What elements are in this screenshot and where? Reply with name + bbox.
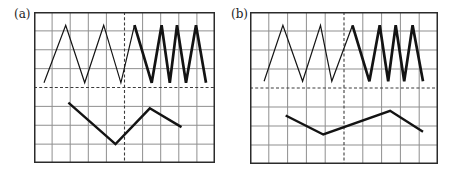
upper-wave-slow-thin	[44, 25, 135, 83]
panel-a-plot	[34, 12, 215, 163]
upper-wave-fast-thick	[135, 25, 207, 83]
upper-wave-slow-thin	[264, 25, 352, 81]
figure-canvas: (a) (b)	[0, 0, 455, 172]
panel-b-label: (b)	[231, 8, 248, 20]
panel-a-label: (a)	[14, 8, 31, 20]
panel-b-plot	[250, 12, 438, 164]
